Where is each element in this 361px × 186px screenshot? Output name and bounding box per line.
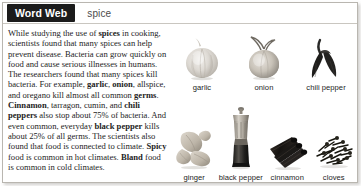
cloves-pile-photo	[311, 129, 357, 171]
article-bold-term: garlic	[87, 79, 108, 89]
article-bold-term: spices	[98, 28, 119, 38]
article-text: While studying the use of	[8, 28, 98, 38]
gallery-caption-cinnamon: cinnamon	[271, 173, 304, 182]
gallery-item-garlic[interactable]: garlic	[171, 37, 233, 92]
gallery-caption-black-pepper: black pepper	[219, 173, 263, 182]
word-web-panel: Word Web spice While studying the use of…	[0, 0, 361, 186]
gallery-item-chili-pepper[interactable]: chili pepper	[295, 35, 357, 92]
gallery-item-cinnamon[interactable]: cinnamon	[264, 127, 311, 182]
chili-pepper-photo	[303, 35, 349, 81]
onion-photo	[240, 35, 288, 81]
gallery-item-cloves[interactable]: cloves	[311, 129, 358, 182]
garlic-bulb-photo	[179, 37, 225, 81]
gallery-caption-chili-pepper: chili pepper	[306, 83, 345, 92]
article-text: food is common in hot climates.	[8, 152, 121, 162]
article-bold-term: black pepper	[94, 121, 142, 131]
spice-gallery: garlic	[171, 24, 357, 182]
ginger-root-photo	[172, 121, 216, 171]
cinnamon-sticks-photo	[264, 127, 310, 171]
headword-label: spice	[87, 8, 111, 19]
gallery-caption-ginger: ginger	[184, 173, 205, 182]
article-bold-term: Cinnamon	[8, 100, 47, 110]
article-text: , tarragon, cumin, and	[47, 100, 125, 110]
pepper-grinder-photo	[224, 105, 258, 171]
gallery-row-top: garlic	[171, 30, 357, 92]
word-web-tab[interactable]: Word Web	[7, 4, 75, 22]
article-bold-term: Spicy	[146, 141, 166, 151]
gallery-item-ginger[interactable]: ginger	[171, 121, 218, 182]
article-paragraph: While studying the use of spices in cook…	[8, 28, 168, 172]
gallery-item-onion[interactable]: onion	[233, 35, 295, 92]
panel-body: While studying the use of spices in cook…	[3, 24, 357, 182]
gallery-caption-onion: onion	[255, 83, 274, 92]
gallery-caption-cloves: cloves	[323, 173, 345, 182]
article-bold-term: onion	[112, 79, 133, 89]
panel-header: Word Web spice	[3, 3, 357, 24]
gallery-caption-garlic: garlic	[193, 83, 211, 92]
gallery-row-bottom: ginger	[171, 98, 357, 182]
article-text: .	[156, 90, 158, 100]
article-bold-term: Bland	[121, 152, 143, 162]
article-bold-term: germs	[134, 90, 156, 100]
gallery-item-black-pepper[interactable]: black pepper	[218, 105, 265, 182]
